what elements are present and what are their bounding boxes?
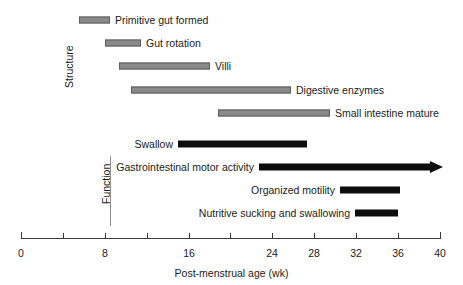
bar-row-small-intestine-mature: Small intestine mature xyxy=(0,105,463,121)
x-axis-tick-36 xyxy=(398,233,399,238)
bar-villi xyxy=(119,63,210,70)
x-axis-tick-12 xyxy=(147,233,148,238)
bar-label-small-intestine-mature: Small intestine mature xyxy=(335,108,439,119)
x-axis-tick-8 xyxy=(105,233,106,238)
x-axis-tick-label-16: 16 xyxy=(183,248,195,259)
x-axis-title: Post-menstrual age (wk) xyxy=(0,268,463,279)
x-axis-tick-label-0: 0 xyxy=(18,248,24,259)
bar-row-gut-rotation: Gut rotation xyxy=(0,35,463,51)
x-axis-tick-28 xyxy=(314,233,315,238)
bar-arrowhead-gastrointestinal-motor-activity xyxy=(430,161,443,173)
x-axis-line xyxy=(21,238,441,239)
bar-small-intestine-mature xyxy=(218,110,330,117)
gut-development-timeline-chart: Structure Function Primitive gut formed … xyxy=(0,0,463,285)
bar-row-organized-motility: Organized motility xyxy=(0,182,463,198)
x-axis-tick-label-32: 32 xyxy=(350,248,362,259)
bar-gastrointestinal-motor-activity xyxy=(259,164,431,171)
bar-row-gastrointestinal-motor-activity: Gastrointestinal motor activity xyxy=(0,159,463,175)
x-axis: 0 8 16 24 28 32 36 40 Post-menstrual age… xyxy=(0,232,463,285)
x-axis-tick-32 xyxy=(356,233,357,238)
bar-row-primitive-gut-formed: Primitive gut formed xyxy=(0,12,463,28)
bar-label-primitive-gut-formed: Primitive gut formed xyxy=(115,15,208,26)
bar-gut-rotation xyxy=(105,40,141,47)
x-axis-tick-label-28: 28 xyxy=(308,248,320,259)
x-axis-tick-4 xyxy=(63,233,64,238)
x-axis-tick-16 xyxy=(189,233,190,238)
bar-label-swallow: Swallow xyxy=(134,139,173,150)
x-axis-tick-label-40: 40 xyxy=(434,248,446,259)
bar-label-villi: Villi xyxy=(215,61,231,72)
bar-organized-motility xyxy=(340,187,400,194)
bar-row-digestive-enzymes: Digestive enzymes xyxy=(0,82,463,98)
plot-area: Structure Function Primitive gut formed … xyxy=(0,0,463,232)
bar-swallow xyxy=(178,141,307,148)
bar-digestive-enzymes xyxy=(131,87,291,94)
x-axis-tick-label-36: 36 xyxy=(392,248,404,259)
x-axis-tick-40 xyxy=(440,232,441,239)
bar-primitive-gut-formed xyxy=(79,17,110,24)
bar-label-digestive-enzymes: Digestive enzymes xyxy=(296,85,384,96)
x-axis-tick-label-8: 8 xyxy=(102,248,108,259)
bar-label-gut-rotation: Gut rotation xyxy=(146,38,201,49)
x-axis-tick-20 xyxy=(230,233,231,238)
bar-row-villi: Villi xyxy=(0,58,463,74)
x-axis-tick-24 xyxy=(272,233,273,238)
bar-row-nutritive-sucking-and-swallowing: Nutritive sucking and swallowing xyxy=(0,205,463,221)
bar-nutritive-sucking-and-swallowing xyxy=(355,210,398,217)
bar-row-swallow: Swallow xyxy=(0,136,463,152)
x-axis-tick-0 xyxy=(21,232,22,239)
x-axis-tick-label-24: 24 xyxy=(266,248,278,259)
bar-label-gastrointestinal-motor-activity: Gastrointestinal motor activity xyxy=(116,162,254,173)
bar-label-nutritive-sucking-and-swallowing: Nutritive sucking and swallowing xyxy=(199,208,350,219)
bar-label-organized-motility: Organized motility xyxy=(251,185,335,196)
